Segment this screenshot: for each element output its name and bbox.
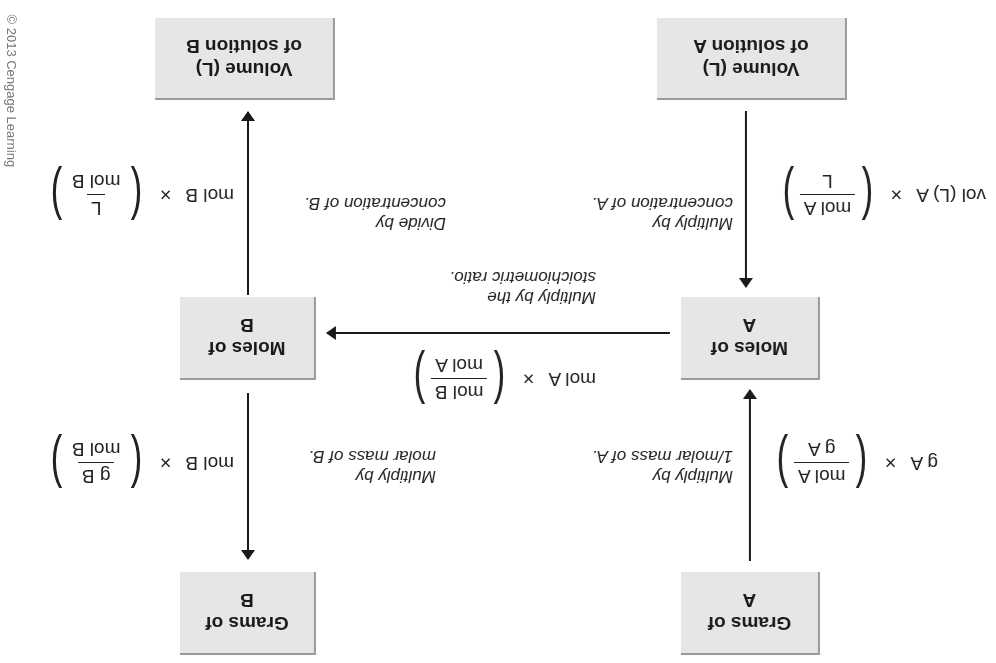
box-line: Volume (L) — [703, 58, 800, 81]
box-line: Moles of — [711, 338, 788, 361]
fraction: g B mol B — [66, 439, 127, 488]
note-line: stoichiometric ratio. — [450, 267, 596, 287]
fraction: L mol B — [66, 171, 127, 220]
box-line: Moles of — [208, 338, 285, 361]
close-paren: ) — [782, 169, 794, 227]
open-paren: ( — [861, 169, 873, 227]
formula-lhs: vol (L) A — [916, 184, 986, 206]
formula-lhs: mol B — [185, 452, 234, 474]
open-paren: ( — [855, 437, 867, 495]
formula-moles-a-to-moles-b: mol A × ( mol B mol A ) — [410, 353, 596, 405]
close-paren: ) — [777, 437, 789, 495]
box-line: B — [240, 315, 254, 338]
box-line: Grams of — [708, 613, 791, 636]
multiply-sign: × — [160, 452, 172, 475]
note-line: Divide by — [304, 213, 446, 233]
close-paren: ) — [50, 437, 62, 495]
box-line: A — [743, 315, 757, 338]
copyright-text: © 2013 Cengage Learning — [4, 15, 19, 197]
box-moles-a: Moles of A — [681, 297, 820, 380]
box-line: of solution B — [186, 35, 302, 58]
box-grams-b: Grams of B — [180, 572, 316, 655]
numerator: mol A — [800, 195, 856, 220]
multiply-sign: × — [891, 184, 903, 207]
open-paren: ( — [130, 437, 142, 495]
denominator: L — [818, 171, 837, 195]
denominator: mol B — [68, 171, 125, 195]
close-paren: ) — [50, 169, 62, 227]
box-line: A — [743, 590, 757, 613]
numerator: mol B — [431, 379, 488, 404]
box-volume-solution-a: Volume (L) of solution A — [657, 18, 847, 100]
formula-volume-a-to-moles-a: vol (L) A × ( mol A L ) — [778, 169, 986, 221]
formula-moles-b-to-volume-b: mol B × ( L mol B ) — [47, 169, 235, 221]
box-moles-b: Moles of B — [180, 297, 316, 380]
numerator: L — [87, 195, 106, 220]
note-moles-b-to-volume-b: Divide by concentration of B. — [304, 193, 446, 233]
multiply-sign: × — [160, 184, 172, 207]
formula-lhs: mol A — [548, 368, 596, 390]
note-moles-b-to-grams-b: Multiply by molar mass of B. — [308, 446, 436, 486]
formula-lhs: g A — [911, 452, 938, 474]
note-line: Multiply by — [592, 466, 733, 486]
multiply-sign: × — [523, 368, 535, 391]
note-line: Multiply by — [592, 213, 733, 233]
fraction: mol A L — [798, 171, 858, 220]
stoichiometry-flow-diagram: Volume (L) of solution A Volume (L) of s… — [0, 0, 996, 663]
formula-grams-a-to-moles-a: g A × ( mol A g A ) — [773, 437, 938, 489]
note-volume-a-to-moles-a: Multiply by concentration of A. — [592, 193, 733, 233]
note-moles-a-to-moles-b: Multiply by the stoichiometric ratio. — [450, 267, 596, 307]
note-line: concentration of A. — [592, 193, 733, 213]
note-line: concentration of B. — [304, 193, 446, 213]
note-line: Multiply by — [308, 466, 436, 486]
multiply-sign: × — [885, 452, 897, 475]
note-line: 1/molar mass of A. — [592, 446, 733, 466]
denominator: mol A — [431, 355, 487, 379]
close-paren: ) — [413, 353, 425, 411]
formula-lhs: mol B — [185, 184, 234, 206]
box-grams-a: Grams of A — [681, 572, 820, 655]
note-line: molar mass of B. — [308, 446, 436, 466]
note-line: Multiply by the — [450, 287, 596, 307]
numerator: g B — [78, 463, 115, 488]
formula-moles-b-to-grams-b: mol B × ( g B mol B ) — [47, 437, 235, 489]
box-line: Grams of — [205, 613, 288, 636]
denominator: mol B — [68, 439, 125, 463]
open-paren: ( — [130, 169, 142, 227]
box-volume-solution-b: Volume (L) of solution B — [155, 18, 335, 100]
note-grams-a-to-moles-a: Multiply by 1/molar mass of A. — [592, 446, 733, 486]
fraction: mol B mol A — [429, 355, 490, 404]
numerator: mol A — [794, 463, 850, 488]
box-line: Volume (L) — [196, 58, 293, 81]
fraction: mol A g A — [792, 439, 852, 488]
denominator: g A — [804, 439, 839, 463]
open-paren: ( — [493, 353, 505, 411]
box-line: of solution A — [693, 35, 808, 58]
box-line: B — [240, 590, 254, 613]
copyright-notice: © 2013 Cengage Learning — [0, 8, 22, 208]
